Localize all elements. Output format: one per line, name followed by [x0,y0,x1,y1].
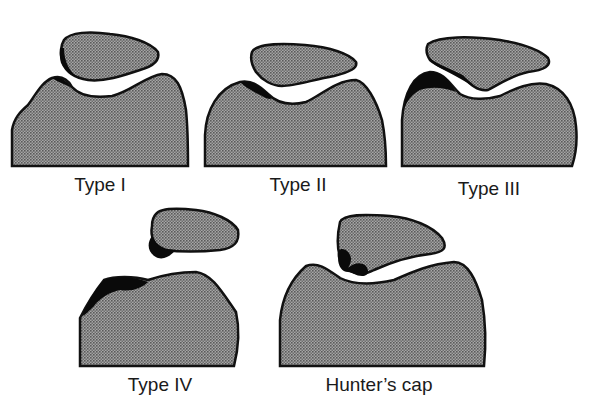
panel-hunters-cap [280,215,485,366]
lower-bone-hunters-cap [280,262,485,366]
label-type1: Type I [74,174,126,196]
label-type2: Type II [269,174,326,196]
panel-type1 [12,32,188,166]
upper-bone-type2 [251,44,356,86]
panel-type3 [402,37,577,166]
lower-bone-type1 [12,74,188,166]
diagram-canvas [0,0,600,408]
label-hunters-cap: Hunter’s cap [325,374,432,396]
label-type4: Type IV [128,374,192,396]
upper-bone-type4 [152,209,239,252]
panel-type2 [205,44,386,166]
label-type3: Type III [458,178,520,200]
lower-bone-type2 [205,80,386,166]
upper-bone-type1 [61,32,158,80]
panel-type4 [80,209,238,366]
